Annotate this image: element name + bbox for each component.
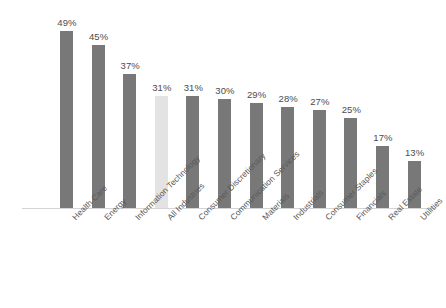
bar-value-label: 25% bbox=[332, 104, 370, 115]
bar-value-label: 13% bbox=[396, 147, 434, 158]
bar-group: 45% bbox=[82, 0, 114, 209]
bar-value-label: 37% bbox=[111, 60, 149, 71]
bar bbox=[123, 74, 136, 208]
bar-value-label: 49% bbox=[48, 17, 86, 28]
category-labels: Health CareEnergyInformation TechnologyA… bbox=[0, 209, 446, 308]
bar-value-label: 17% bbox=[364, 132, 402, 143]
bar bbox=[60, 31, 73, 208]
bar-group: 13% bbox=[398, 0, 430, 209]
bar-value-label: 45% bbox=[80, 31, 118, 42]
bar-group: 27% bbox=[303, 0, 335, 209]
plot-area: 49%45%37%31%31%30%29%28%27%25%17%13% bbox=[0, 0, 446, 209]
bar-group: 37% bbox=[113, 0, 145, 209]
bar-group: 49% bbox=[50, 0, 82, 209]
bar-chart: 49%45%37%31%31%30%29%28%27%25%17%13% Hea… bbox=[0, 0, 446, 308]
